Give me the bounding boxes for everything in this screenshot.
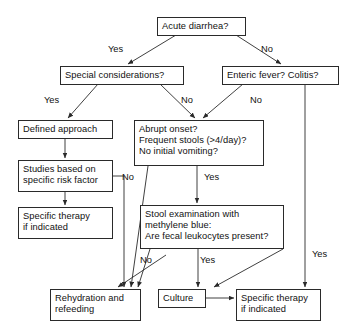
edge-label-yes-acute-special: Yes <box>108 44 123 54</box>
edge-stool-right-to-culture <box>214 249 283 287</box>
node-rehydration-refeeding[interactable]: Rehydration and refeeding <box>50 289 141 321</box>
node-stool-examination[interactable]: Stool examination with methylene blue: A… <box>140 205 284 249</box>
edge-studies-to-rehydration <box>113 176 124 287</box>
edge-acute-to-enteric <box>236 35 281 64</box>
node-acute-diarrhea[interactable]: Acute diarrhea? <box>157 17 246 36</box>
edge-label-no-enteric-abrupt: No <box>250 95 262 105</box>
edge-acute-to-special <box>128 35 176 64</box>
node-specific-therapy-left[interactable]: Specific therapy if indicated <box>18 207 113 239</box>
edge-label-yes-special-defined: Yes <box>44 95 59 105</box>
edge-enteric-to-abrupt <box>203 84 243 118</box>
edge-label-yes-abrupt-stool: Yes <box>204 172 219 182</box>
edge-special-to-defined <box>68 84 98 118</box>
edge-label-no-stool-rehydration: No <box>140 255 152 265</box>
edge-label-yes-enteric-specific: Yes <box>312 249 327 259</box>
node-specific-therapy-right[interactable]: Specific therapy if indicated <box>236 289 321 321</box>
edge-label-no-abrupt-rehydration: No <box>122 172 134 182</box>
node-enteric-fever-colitis[interactable]: Enteric fever? Colitis? <box>222 66 339 85</box>
node-studies-risk-factor[interactable]: Studies based on specific risk factor <box>18 160 113 192</box>
edge-label-yes-stool-culture: Yes <box>200 255 215 265</box>
node-defined-approach[interactable]: Defined approach <box>18 120 113 139</box>
node-special-considerations[interactable]: Special considerations? <box>60 66 184 85</box>
edge-label-no-special-abrupt: No <box>181 95 193 105</box>
node-culture[interactable]: Culture <box>158 289 206 308</box>
edge-label-no-acute-enteric: No <box>261 44 273 54</box>
flowchart-diagram: Acute diarrhea? Special considerations? … <box>0 0 351 336</box>
node-abrupt-onset-questions[interactable]: Abrupt onset? Frequent stools (>4/day)? … <box>134 120 264 166</box>
